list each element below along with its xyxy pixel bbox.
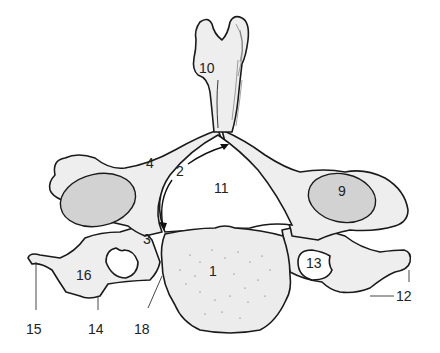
label-1: 1	[209, 264, 217, 278]
label-10: 10	[199, 61, 215, 75]
label-9: 9	[338, 184, 346, 198]
label-3: 3	[143, 232, 151, 246]
label-16: 16	[76, 268, 92, 282]
label-12: 12	[396, 289, 412, 303]
vertebral-body	[161, 226, 290, 333]
label-13: 13	[306, 256, 322, 270]
vertebra-illustration	[0, 0, 440, 353]
label-2: 2	[176, 164, 184, 178]
label-14: 14	[88, 322, 104, 336]
label-15: 15	[26, 322, 42, 336]
label-11: 11	[214, 181, 229, 195]
leader-18	[148, 276, 162, 308]
label-18: 18	[134, 322, 150, 336]
left-transverse-process	[28, 226, 160, 298]
label-4: 4	[146, 156, 154, 170]
